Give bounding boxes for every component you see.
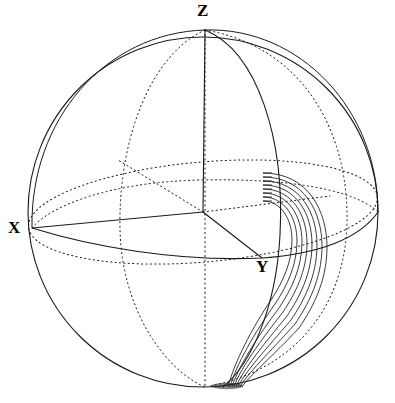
axis-z-line [203, 30, 205, 212]
sphere-figure: Z X Y [0, 0, 395, 403]
axis-label-x: X [8, 219, 20, 236]
axis-label-z: Z [197, 2, 208, 19]
axis-back-dotted [118, 160, 203, 212]
xz-meridian-dotted [120, 30, 205, 387]
sphere-diagram-svg [0, 0, 395, 403]
axis-right-dotted [203, 196, 330, 212]
axis-label-y: Y [256, 258, 268, 275]
contour-line [228, 201, 292, 387]
right-meridian-dotted [205, 30, 347, 386]
contour-family [228, 173, 327, 387]
axis-x-line [32, 212, 203, 228]
contour-focus-point [211, 383, 243, 389]
contour-stub-ticks [263, 173, 272, 201]
contour-line [232, 193, 302, 387]
yz-meridian-solid [205, 30, 281, 387]
axis-y-line [203, 212, 262, 258]
contour-line [242, 173, 327, 387]
